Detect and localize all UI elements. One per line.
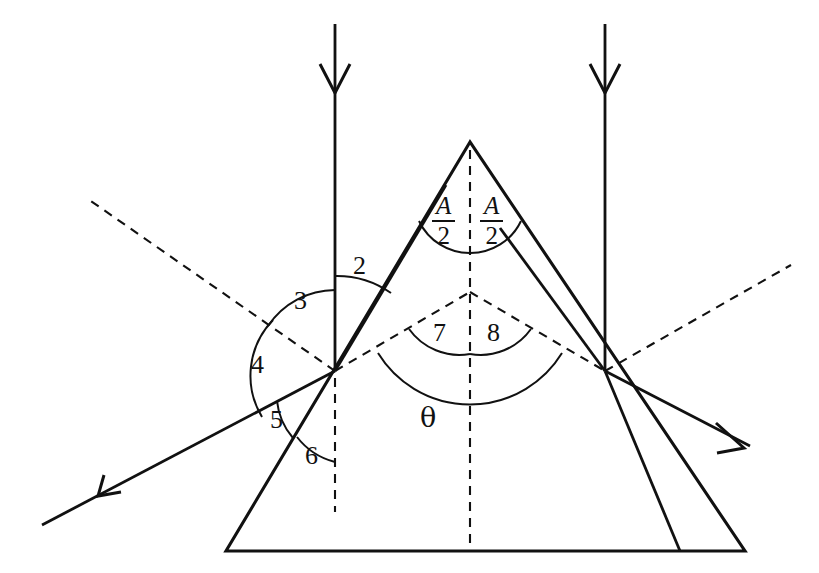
arc-angle-8 — [470, 329, 531, 355]
half-apex-right-denominator: 2 — [480, 223, 503, 249]
prism-ray-diagram: 2 3 4 5 6 7 8 θ A 2 A 2 — [0, 0, 819, 573]
label-angle-5: 5 — [270, 407, 283, 433]
arrowhead-emergent-right-icon — [716, 423, 744, 453]
internal-ray-visible — [335, 368, 605, 371]
half-apex-left-denominator: 2 — [432, 223, 455, 249]
label-angle-4: 4 — [251, 352, 264, 378]
angle-arcs — [250, 221, 562, 462]
label-angle-theta: θ — [420, 404, 436, 431]
reflected-ray-left — [42, 371, 335, 525]
refracted-internal-down-left — [248, 371, 335, 552]
label-angle-8: 8 — [487, 320, 500, 346]
label-angle-3: 3 — [294, 288, 307, 314]
label-half-apex-right: A 2 — [480, 193, 503, 248]
label-angle-7: 7 — [433, 320, 446, 346]
half-apex-right-numerator: A — [480, 193, 503, 219]
diagram-canvas — [0, 0, 819, 573]
ray-lines — [42, 24, 750, 552]
internal-ray-to-exit — [500, 228, 605, 371]
normal-right-face-dashed-line — [605, 265, 791, 371]
label-angle-2: 2 — [353, 253, 366, 279]
label-half-apex-left: A 2 — [432, 193, 455, 248]
normal-left-face-dashed-line — [88, 199, 335, 371]
half-apex-left-numerator: A — [432, 193, 455, 219]
label-angle-6: 6 — [305, 443, 318, 469]
